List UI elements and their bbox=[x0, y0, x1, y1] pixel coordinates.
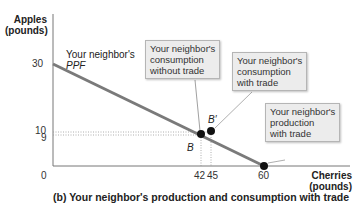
callout-production-with-trade: Your neighbor's production with trade bbox=[265, 103, 340, 142]
point-b-prime-label: B′ bbox=[208, 114, 217, 125]
leader-without-trade bbox=[195, 80, 200, 131]
x-axis-label: Cherries (pounds) bbox=[300, 170, 352, 192]
x-tick-60: 60 bbox=[258, 171, 269, 181]
ppf-label: Your neighbor's PPF bbox=[66, 49, 135, 71]
figure-caption: (b) Your neighbor's production and consu… bbox=[53, 191, 349, 203]
leader-production bbox=[268, 160, 285, 163]
x-tick-45: 45 bbox=[207, 171, 218, 181]
leader-with-trade bbox=[215, 92, 252, 128]
callout-consumption-with-trade: Your neighbor's consumption with trade bbox=[232, 52, 307, 91]
y-tick-9: 9 bbox=[41, 133, 47, 143]
y-tick-30: 30 bbox=[32, 59, 43, 69]
y-axis-label: Apples (pounds) bbox=[5, 14, 47, 36]
origin-label: 0 bbox=[41, 171, 47, 181]
x-tick-42: 42 bbox=[194, 171, 205, 181]
point-b-prime bbox=[207, 127, 215, 135]
point-production bbox=[260, 162, 268, 170]
point-b bbox=[197, 130, 205, 138]
callout-consumption-without-trade: Your neighbor's consumption without trad… bbox=[145, 40, 220, 79]
point-b-label: B bbox=[187, 142, 194, 153]
